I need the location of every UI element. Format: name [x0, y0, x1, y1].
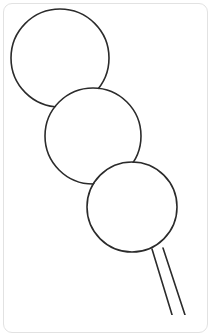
drawing-card: [3, 3, 208, 333]
circle-bottom: [87, 162, 177, 252]
skewer-stick: [152, 248, 186, 315]
circle-top: [11, 9, 109, 107]
line-art-svg: [3, 3, 208, 315]
artboard: [4, 4, 207, 332]
circle-middle: [45, 88, 141, 184]
